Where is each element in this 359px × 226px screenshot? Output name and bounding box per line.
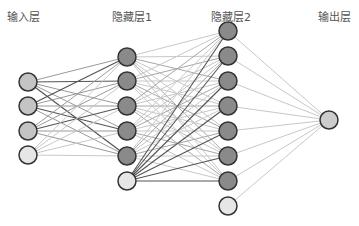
edges-group [28, 31, 329, 206]
network-graph [0, 0, 359, 226]
edge [28, 57, 127, 82]
output-layer-label: 输出层 [318, 8, 351, 24]
edge [28, 155, 127, 156]
hidden-layer-2-label: 隐藏层2 [211, 8, 251, 24]
bias-node [19, 146, 37, 164]
hidden2-node [219, 72, 237, 90]
hidden2-node [219, 147, 237, 165]
hidden2-node [219, 172, 237, 190]
output-node [320, 111, 338, 129]
edge [228, 81, 329, 120]
input-node [19, 97, 37, 115]
hidden1-node [118, 72, 136, 90]
hidden2-node [219, 122, 237, 140]
edge [228, 106, 329, 120]
hidden1-node [118, 122, 136, 140]
bias-node [118, 172, 136, 190]
bias-node [219, 197, 237, 215]
input-node [19, 122, 37, 140]
hidden2-node [219, 47, 237, 65]
edge [228, 31, 329, 120]
neural-network-diagram: 输入层 隐藏层1 隐藏层2 输出层 [0, 0, 359, 226]
edge [28, 57, 127, 131]
input-layer-label: 输入层 [7, 8, 40, 24]
hidden2-node [219, 22, 237, 40]
edge [228, 56, 329, 120]
hidden1-node [118, 48, 136, 66]
hidden-layer-1-label: 隐藏层1 [112, 8, 152, 24]
input-node [19, 73, 37, 91]
edge [228, 120, 329, 206]
hidden2-node [219, 97, 237, 115]
hidden1-node [118, 147, 136, 165]
hidden1-node [118, 97, 136, 115]
edge [127, 31, 228, 156]
